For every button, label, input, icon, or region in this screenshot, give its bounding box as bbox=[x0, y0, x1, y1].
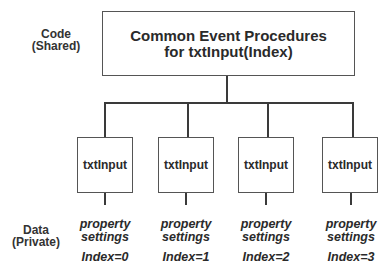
settings-text: settings bbox=[226, 231, 306, 244]
tail-connector-0 bbox=[104, 193, 106, 205]
code-shared-sublabel: (Shared) bbox=[28, 40, 84, 52]
settings-text: settings bbox=[65, 231, 145, 244]
property-settings-0: property settings bbox=[65, 218, 145, 244]
index-label-3: Index=3 bbox=[311, 250, 386, 264]
tail-connector-3 bbox=[350, 193, 352, 205]
txtinput-box-3: txtInput bbox=[322, 137, 378, 193]
branch-connector-3 bbox=[352, 102, 354, 137]
branch-connector-0 bbox=[104, 102, 106, 137]
code-shared-label: Code (Shared) bbox=[28, 28, 84, 52]
tail-connector-2 bbox=[265, 193, 267, 205]
txtinput-box-1: txtInput bbox=[158, 137, 214, 193]
top-box-line2: for txtInput(Index) bbox=[164, 44, 292, 60]
txtinput-label: txtInput bbox=[164, 158, 208, 172]
txtinput-box-2: txtInput bbox=[238, 137, 294, 193]
branch-connector-1 bbox=[187, 102, 189, 137]
txtinput-label: txtInput bbox=[328, 158, 372, 172]
tail-connector-1 bbox=[185, 193, 187, 205]
top-box-line1: Common Event Procedures bbox=[130, 28, 327, 44]
settings-text: settings bbox=[311, 231, 386, 244]
data-private-label: Data (Private) bbox=[6, 224, 66, 248]
index-label-1: Index=1 bbox=[146, 250, 226, 264]
stem-connector bbox=[226, 76, 228, 104]
txtinput-box-0: txtInput bbox=[77, 137, 133, 193]
txtinput-label: txtInput bbox=[83, 158, 127, 172]
horizontal-connector bbox=[104, 102, 354, 104]
branch-connector-2 bbox=[267, 102, 269, 137]
settings-text: settings bbox=[146, 231, 226, 244]
data-private-sublabel: (Private) bbox=[6, 236, 66, 248]
txtinput-label: txtInput bbox=[244, 158, 288, 172]
common-event-procedures-box: Common Event Procedures for txtInput(Ind… bbox=[102, 11, 355, 76]
property-settings-2: property settings bbox=[226, 218, 306, 244]
property-settings-3: property settings bbox=[311, 218, 386, 244]
index-label-0: Index=0 bbox=[65, 250, 145, 264]
index-label-2: Index=2 bbox=[226, 250, 306, 264]
property-settings-1: property settings bbox=[146, 218, 226, 244]
